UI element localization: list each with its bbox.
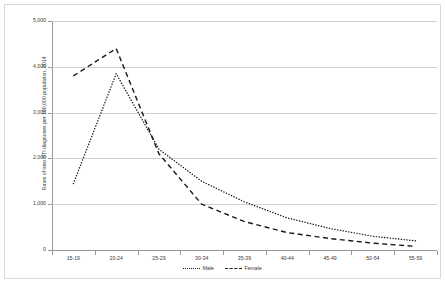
legend-item-female[interactable]: Female [225,266,262,271]
x-axis-tick-mark [138,251,139,255]
series-line-male [73,74,415,241]
y-axis-tick-label: 5,000 [33,18,46,23]
chart-figure: Rates of new STI diagnoses per 100,000 p… [0,0,445,289]
y-axis-tick-mark [48,113,52,114]
x-axis-tick-mark [309,251,310,255]
plot-area [52,21,437,250]
legend-item-male[interactable]: Male [183,266,214,271]
x-axis-tick-label: 50-54 [366,256,379,261]
y-axis-tick-mark [48,158,52,159]
y-axis-tick-mark [48,250,52,251]
y-axis-tick-label: 4,000 [33,64,46,69]
legend-swatch-dashed-icon [225,267,242,270]
y-axis-tick-label: 3,000 [33,110,46,115]
x-axis-tick-label: 55-59 [409,256,422,261]
x-axis-tick-label: 45-49 [323,256,336,261]
x-axis-tick-label: 15-19 [67,256,80,261]
x-axis-tick-mark [266,251,267,255]
x-axis-tick-label: 30-34 [195,256,208,261]
series-line-female [73,48,415,246]
series-lines [52,21,437,250]
y-axis-tick-label: 0 [43,247,46,252]
x-axis-tick-mark [52,251,53,255]
x-axis-tick-mark [394,251,395,255]
y-axis-tick-label: 2,000 [33,155,46,160]
x-axis-tick-label: 35-39 [238,256,251,261]
x-axis-tick-mark [180,251,181,255]
chart-legend: MaleFemale [0,266,445,271]
legend-label: Female [244,266,261,271]
x-axis-tick-mark [351,251,352,255]
y-axis-tick-label: 1,000 [33,201,46,206]
y-axis-tick-mark [48,21,52,22]
y-axis-tick-mark [48,67,52,68]
legend-swatch-dotted-icon [183,267,200,270]
x-axis-tick-label: 40-44 [281,256,294,261]
x-axis-tick-mark [223,251,224,255]
x-axis-tick-mark [437,251,438,255]
x-axis-tick-mark [95,251,96,255]
y-axis-tick-labels: 5,0004,0003,0002,0001,0000 [0,0,46,289]
legend-label: Male [203,266,214,271]
x-axis-line [52,250,437,251]
x-axis-tick-label: 20-24 [110,256,123,261]
y-axis-tick-mark [48,204,52,205]
x-axis-tick-label: 25-29 [152,256,165,261]
